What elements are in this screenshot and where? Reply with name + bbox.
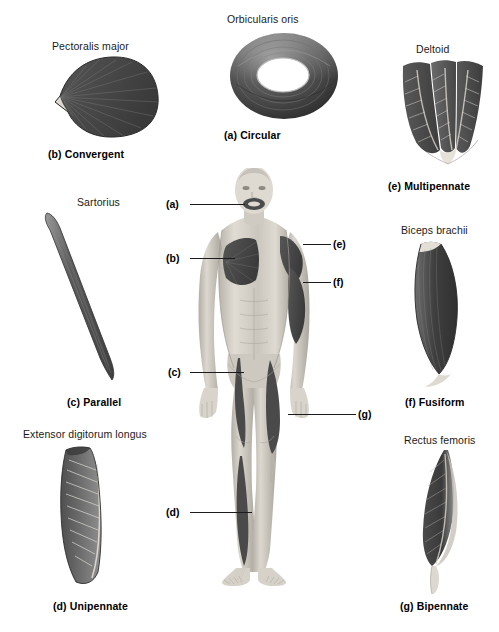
multipennate-muscle-illustration	[400, 56, 492, 166]
muscle-fascicle-figure: Orbicularis oris (a) Circular P	[0, 0, 499, 632]
body-illustration	[178, 168, 330, 588]
leader-line-g	[288, 414, 356, 415]
highlight-pectoralis-major	[223, 238, 259, 286]
muscle-name-extensor-digitorum-longus: Extensor digitorum longus	[23, 428, 147, 440]
human-body-anterior-view	[178, 168, 330, 588]
leader-label-b: (b)	[166, 252, 179, 264]
muscle-name-rectus-femoris: Rectus femoris	[404, 434, 475, 446]
panel-unipennate-extensor-digitorum-longus	[52, 444, 120, 592]
cropped-page-caption	[0, 618, 499, 632]
leader-label-e: (e)	[333, 238, 346, 250]
leader-label-d: (d)	[166, 506, 179, 518]
caption-fusiform: (f) Fusiform	[405, 396, 465, 408]
leader-label-g: (g)	[358, 408, 371, 420]
leader-label-a: (a)	[166, 198, 179, 210]
muscle-name-biceps-brachii: Biceps brachii	[401, 224, 468, 236]
muscle-name-deltoid: Deltoid	[416, 43, 449, 55]
muscle-name-pectoralis-major: Pectoralis major	[52, 40, 129, 52]
parallel-muscle-illustration	[38, 210, 133, 385]
caption-bipennate: (g) Bipennate	[400, 600, 468, 612]
leader-line-d	[190, 512, 252, 513]
leader-line-e	[303, 244, 331, 245]
leader-label-f: (f)	[333, 276, 344, 288]
caption-circular: (a) Circular	[224, 129, 281, 141]
panel-multipennate-deltoid	[400, 56, 492, 166]
leader-line-c	[190, 372, 244, 373]
caption-convergent: (b) Convergent	[48, 148, 124, 160]
panel-convergent-pectoralis-major	[46, 52, 166, 140]
panel-parallel-sartorius	[38, 210, 133, 385]
convergent-muscle-illustration	[46, 52, 166, 140]
circular-muscle-illustration	[228, 30, 340, 122]
bipennate-muscle-illustration	[410, 448, 474, 596]
highlight-orbicularis-oris	[243, 198, 265, 210]
caption-parallel: (c) Parallel	[67, 396, 121, 408]
leader-line-f	[303, 282, 331, 283]
panel-bipennate-rectus-femoris	[410, 448, 474, 596]
leader-label-c: (c)	[168, 366, 181, 378]
muscle-name-orbicularis-oris: Orbicularis oris	[227, 13, 299, 25]
muscle-name-sartorius: Sartorius	[77, 196, 120, 208]
unipennate-muscle-illustration	[52, 444, 120, 592]
panel-circular-orbicularis-oris	[228, 30, 340, 122]
caption-unipennate: (d) Unipennate	[53, 600, 128, 612]
leader-line-b	[190, 258, 235, 259]
panel-fusiform-biceps-brachii	[405, 240, 477, 388]
fusiform-muscle-illustration	[405, 240, 477, 388]
caption-multipennate: (e) Multipennate	[388, 180, 470, 192]
leader-line-a	[190, 204, 245, 205]
